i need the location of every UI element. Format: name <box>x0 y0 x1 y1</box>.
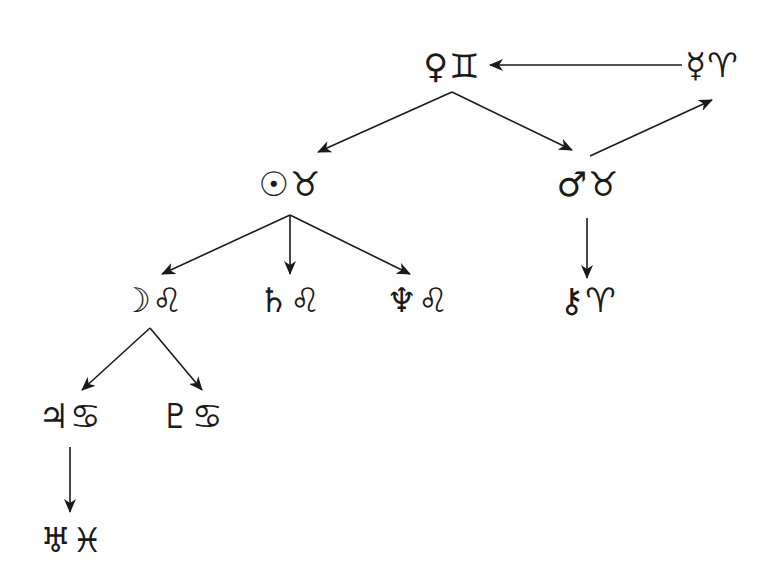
node-uranus-pisces: ♅♓ <box>41 520 104 560</box>
arrow-moon-leo-to-pluto-cancer <box>150 328 202 390</box>
node-chiron-aries: ⚷♈ <box>559 280 616 320</box>
arrow-sun-taurus-to-moon-leo <box>162 215 290 274</box>
arrow-venus-gemini-to-mars-taurus <box>452 92 572 150</box>
arrow-moon-leo-to-jupiter-cancer <box>82 328 150 390</box>
node-venus-gemini: ♀♊ <box>423 46 480 86</box>
arrow-venus-gemini-to-sun-taurus <box>318 92 452 152</box>
arrow-sun-taurus-to-neptune-leo <box>290 215 410 274</box>
node-jupiter-cancer: ♃♋ <box>39 396 102 436</box>
node-mercury-aries: ☿♈ <box>685 45 738 85</box>
node-neptune-leo: ♆♌ <box>387 280 450 320</box>
node-saturn-leo: ♄♌ <box>259 280 322 320</box>
node-mars-taurus: ♂♉ <box>557 164 620 204</box>
node-sun-taurus: ☉♉ <box>259 164 322 204</box>
node-pluto-cancer: ♇♋ <box>161 396 224 436</box>
diagram-canvas: ♀♊☿♈☉♉♂♉☽♌♄♌♆♌⚷♈♃♋♇♋♅♓ <box>0 0 773 584</box>
node-moon-leo: ☽♌ <box>121 280 184 320</box>
arrow-mars-taurus-to-mercury-aries <box>590 100 712 156</box>
